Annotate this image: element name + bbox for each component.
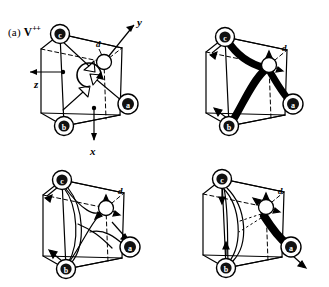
atom-b: b — [57, 260, 76, 279]
atom-b-label: b — [224, 265, 229, 274]
bond-label-d: d — [278, 186, 283, 196]
panel-v-double-plus: (a) V++ z — [0, 0, 164, 143]
atom-a: a — [281, 237, 301, 257]
atom-b-label: b — [62, 123, 67, 132]
atom-b: b — [55, 117, 74, 136]
bond-label-d: d — [96, 39, 101, 49]
arrow-c-head — [210, 52, 217, 59]
displacement-arrow-b — [63, 86, 90, 110]
panel-v-neutral: (c) V0 — [0, 144, 164, 287]
atom-c-label: c — [58, 31, 62, 40]
atom-a-label: a — [291, 101, 295, 110]
arrow-b-head — [214, 108, 222, 116]
panel-b-drawing: d c b a — [165, 0, 329, 143]
bond-network-thick — [227, 40, 290, 122]
atom-c: c — [51, 25, 70, 44]
atom-b: b — [217, 259, 236, 278]
axis-y: y — [104, 16, 142, 62]
atom-d — [97, 55, 112, 70]
atom-d — [99, 201, 114, 216]
atom-c: c — [53, 171, 72, 190]
atom-a: a — [283, 94, 303, 114]
panel-a-drawing: z y x — [0, 0, 164, 143]
atom-c: c — [216, 28, 235, 47]
axis-z-label: z — [33, 78, 39, 90]
panel-v-plus: (b) V+ — [165, 0, 329, 143]
atom-a: a — [118, 94, 138, 114]
axis-z: z — [30, 69, 65, 90]
atom-a-label: a — [128, 244, 132, 253]
bond-b-d — [70, 214, 101, 261]
atom-a: a — [120, 237, 140, 257]
atom-b: b — [220, 117, 239, 136]
weak-link-d-c — [237, 214, 261, 222]
atom-a-label: a — [126, 101, 130, 110]
atom-c-label: c — [60, 177, 64, 186]
atom-c-label: c — [220, 176, 224, 185]
panel-c-drawing: d c b a — [0, 144, 164, 287]
atom-c-label: c — [223, 34, 227, 43]
atom-b-label: b — [227, 123, 232, 132]
axis-y-label: y — [135, 16, 142, 28]
bond-label-d: d — [118, 186, 123, 196]
atom-a-label: a — [289, 244, 293, 253]
vacancy-charge-state-figure: (a) V++ z — [0, 0, 329, 287]
atom-d — [259, 200, 274, 215]
atom-b-label: b — [64, 266, 69, 275]
panel-v-minus: (d) V− — [165, 144, 329, 287]
atom-d — [262, 58, 277, 73]
bond-label-d: d — [282, 43, 287, 53]
atom-c: c — [213, 170, 232, 189]
arrow-c-head — [219, 197, 225, 204]
panel-d-drawing: d c b a — [165, 144, 329, 287]
displacement-arrow-a — [90, 74, 122, 101]
displacement-arrow-c — [62, 41, 95, 72]
